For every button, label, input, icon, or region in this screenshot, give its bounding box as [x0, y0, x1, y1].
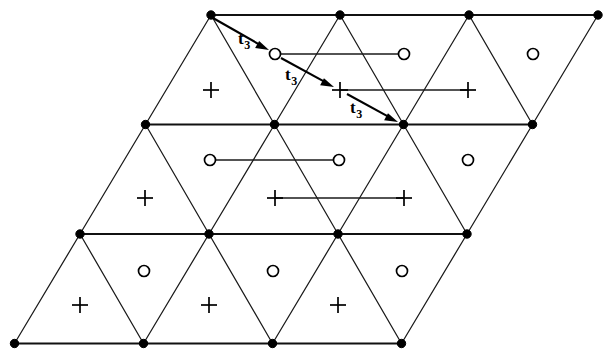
lattice-vertex-dot: [139, 339, 147, 347]
lattice-diagonal-edge: [146, 15, 212, 125]
open-circle-site: [205, 155, 216, 166]
lattice-diagonal-edge: [144, 234, 210, 344]
connector-lines-group: [210, 54, 468, 198]
lattice-vertex-dot: [594, 11, 602, 19]
lattice-diagonal-edge: [404, 15, 470, 125]
lattice-diagonal-edge: [80, 234, 144, 344]
lattice-vertex-dot: [465, 11, 473, 19]
lattice-diagonal-edge: [338, 234, 402, 344]
open-circle-site: [528, 49, 539, 60]
plus-site: [330, 297, 346, 313]
lattice-vertex-dot: [336, 11, 344, 19]
lattice-vertex-dot: [10, 339, 18, 347]
lattice-edges-group: [15, 15, 599, 344]
lattice-diagonal-edge: [273, 234, 339, 344]
lattice-diagram-svg: t3t3t3: [0, 0, 612, 361]
t3-vectors-group: t3t3t3: [213, 18, 398, 122]
plus-site: [72, 297, 88, 313]
lattice-vertex-dot: [141, 120, 149, 128]
open-circle-site: [463, 155, 474, 166]
lattice-figure: t3t3t3: [0, 0, 612, 361]
lattice-vertex-dot: [334, 230, 342, 238]
open-circle-site: [268, 266, 279, 277]
open-circle-site: [270, 49, 281, 60]
lattice-diagonal-edge: [209, 125, 275, 235]
lattice-vertex-dot: [268, 339, 276, 347]
lattice-diagonal-edge: [146, 125, 210, 235]
lattice-vertex-dot: [205, 230, 213, 238]
t3-arrow-1-label: t3: [238, 29, 250, 52]
open-circle-site: [139, 266, 150, 277]
lattice-vertex-dot: [463, 230, 471, 238]
lattice-diagonal-edge: [209, 234, 273, 344]
t3-arrow-2-label: t3: [285, 65, 297, 88]
lattice-vertex-dot: [528, 120, 536, 128]
lattice-vertex-dot: [399, 120, 407, 128]
plus-site: [203, 82, 219, 98]
plus-site: [396, 190, 412, 206]
vector-label-subscript: 3: [356, 107, 362, 121]
vector-label-subscript: 3: [291, 74, 297, 88]
lattice-diagonal-edge: [469, 15, 533, 125]
lattice-diagonal-edge: [15, 234, 81, 344]
open-circle-site: [397, 266, 408, 277]
lattice-diagonal-edge: [338, 125, 404, 235]
lattice-diagonal-edge: [404, 125, 468, 235]
lattice-diagonal-edge: [402, 234, 468, 344]
lattice-diagonal-edge: [533, 15, 599, 125]
sublattice-sites-group: [72, 49, 539, 314]
plus-site: [201, 297, 217, 313]
open-circle-site: [334, 155, 345, 166]
vector-label-subscript: 3: [244, 38, 250, 52]
lattice-vertex-dot: [76, 230, 84, 238]
plus-site: [460, 82, 476, 98]
plus-site: [332, 82, 348, 98]
plus-site: [267, 190, 283, 206]
lattice-diagonal-edge: [80, 125, 146, 235]
plus-site: [137, 190, 153, 206]
lattice-diagonal-edge: [467, 125, 533, 235]
lattice-vertex-dot: [270, 120, 278, 128]
lattice-diagonal-edge: [275, 125, 339, 235]
lattice-vertex-dot: [397, 339, 405, 347]
open-circle-site: [399, 49, 410, 60]
